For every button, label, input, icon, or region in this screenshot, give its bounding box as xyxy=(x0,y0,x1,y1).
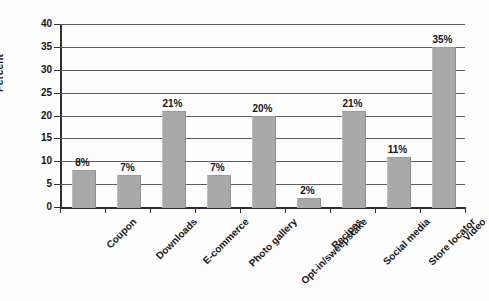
x-tick-mark xyxy=(60,207,61,213)
x-category-label: Social media xyxy=(380,216,431,267)
x-category-label: Coupon xyxy=(104,216,138,250)
gridline xyxy=(60,93,465,94)
y-tick-label: 40 xyxy=(26,19,52,29)
bar-value-label: 11% xyxy=(378,145,418,155)
bar-value-label: 7% xyxy=(198,163,238,173)
x-tick-mark xyxy=(105,207,106,213)
bar xyxy=(117,175,141,208)
bar-value-label: 20% xyxy=(243,104,283,114)
y-tick-label: 15 xyxy=(26,133,52,143)
bar-value-label: 8% xyxy=(63,158,103,168)
x-tick-mark xyxy=(330,207,331,213)
bar-value-label: 21% xyxy=(153,99,193,109)
y-tick-label: 20 xyxy=(26,111,52,121)
x-tick-mark xyxy=(285,207,286,213)
y-tick-label: 5 xyxy=(26,179,52,189)
y-tick-label: 30 xyxy=(26,65,52,75)
bar xyxy=(297,198,321,208)
y-axis-title: Percent xyxy=(0,0,5,92)
y-tick-label: 35 xyxy=(26,42,52,52)
bar-chart: Percent 0510152025303540 8%7%21%7%20%2%2… xyxy=(0,0,489,301)
bar xyxy=(432,47,456,208)
x-tick-mark xyxy=(195,207,196,213)
y-tick-label: 10 xyxy=(26,156,52,166)
bar-value-label: 7% xyxy=(108,163,148,173)
x-tick-mark xyxy=(375,207,376,213)
gridline xyxy=(60,24,465,25)
bar xyxy=(342,111,366,208)
x-category-label: Photo gallery xyxy=(246,216,299,269)
y-tick-label: 0 xyxy=(26,202,52,212)
y-tick-label: 25 xyxy=(26,88,52,98)
x-tick-mark xyxy=(150,207,151,213)
bar-value-label: 2% xyxy=(288,186,328,196)
x-category-label: E-commerce xyxy=(200,216,250,266)
x-tick-mark xyxy=(465,207,466,213)
bar xyxy=(72,170,96,208)
bar xyxy=(162,111,186,208)
gridline xyxy=(60,70,465,71)
bar-value-label: 35% xyxy=(423,35,463,45)
bar xyxy=(252,116,276,209)
x-tick-mark xyxy=(420,207,421,213)
bar-value-label: 21% xyxy=(333,99,373,109)
bar xyxy=(207,175,231,208)
x-tick-mark xyxy=(240,207,241,213)
bar xyxy=(387,157,411,208)
x-category-label: Downloads xyxy=(153,216,198,261)
gridline xyxy=(60,47,465,48)
